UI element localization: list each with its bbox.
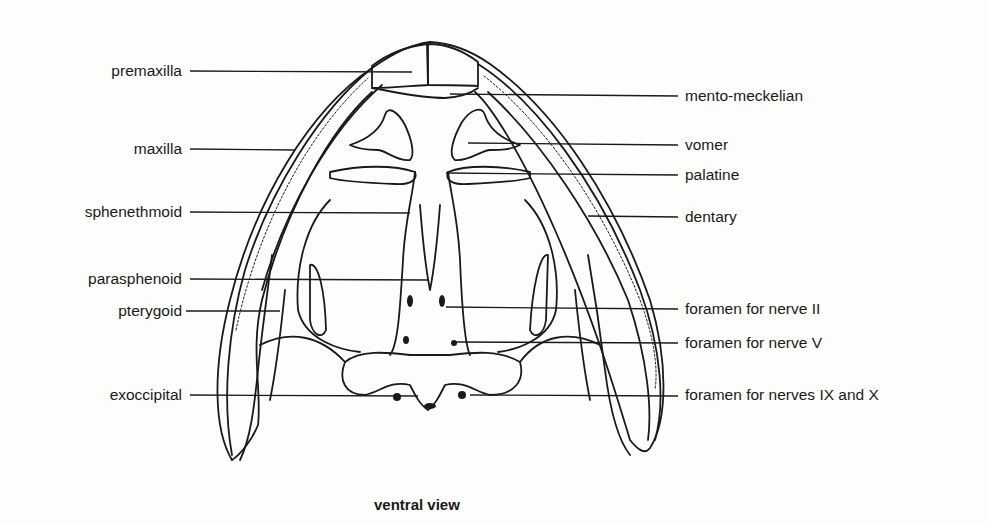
- leader-dentary: [588, 216, 678, 217]
- label-foramen-nerve-v: foramen for nerve V: [685, 334, 822, 352]
- leader-exoccipital: [190, 395, 418, 396]
- caption-ventral-view: ventral view: [374, 496, 460, 513]
- leader-maxilla: [190, 149, 295, 150]
- leader-mento-meckelian: [450, 94, 678, 96]
- vomer-right: [452, 110, 520, 161]
- label-pterygoid: pterygoid: [118, 302, 182, 320]
- label-dentary: dentary: [685, 208, 737, 226]
- leader-palatine: [446, 173, 678, 175]
- vomer-left: [350, 110, 412, 160]
- leader-parasphenoid: [190, 279, 429, 280]
- exoccipital: [342, 353, 521, 410]
- label-parasphenoid: parasphenoid: [88, 270, 182, 288]
- label-exoccipital: exoccipital: [110, 386, 182, 404]
- parasphenoid: [390, 172, 470, 355]
- outer-jaw-outline: [217, 42, 663, 460]
- premaxilla: [372, 44, 428, 88]
- label-foramen-nerve-ii: foramen for nerve II: [685, 300, 820, 318]
- leader-premaxilla: [190, 71, 412, 72]
- label-premaxilla: premaxilla: [111, 62, 182, 80]
- leader-sphenethmoid: [190, 212, 410, 213]
- palatine-right: [447, 167, 530, 184]
- label-maxilla: maxilla: [134, 140, 182, 158]
- label-palatine: palatine: [685, 166, 739, 184]
- leader-foramen-nerves-ix-x: [470, 395, 678, 396]
- label-mento-meckelian: mento-meckelian: [685, 87, 803, 105]
- palatine-left: [330, 167, 416, 184]
- label-sphenethmoid: sphenethmoid: [85, 203, 182, 221]
- leader-vomer: [468, 143, 678, 145]
- label-foramen-nerves-ix-x: foramen for nerves IX and X: [685, 386, 879, 404]
- label-vomer: vomer: [685, 136, 728, 154]
- leader-foramen-nerve-v: [456, 342, 678, 343]
